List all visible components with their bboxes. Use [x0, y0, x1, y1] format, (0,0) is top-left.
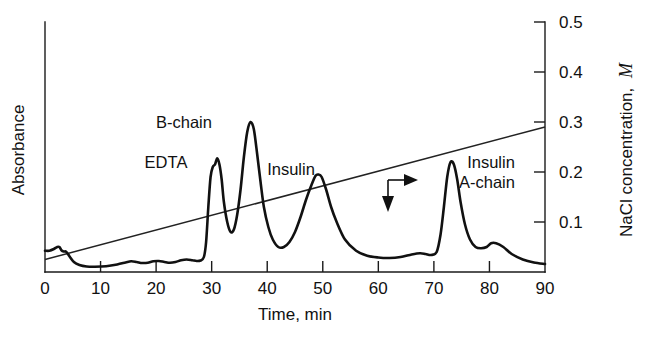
gradient-pointer-annotation — [382, 174, 418, 212]
x-tick-label: 90 — [536, 279, 555, 298]
right-axis-title-italic: M — [616, 62, 636, 79]
b-chain-label: B-chain — [156, 113, 212, 131]
x-tick-label: 50 — [313, 279, 332, 298]
x-tick-label: 0 — [40, 279, 49, 298]
x-axis-tick-labels: 0102030405060708090 — [40, 279, 554, 298]
right-axis-title-plain: NaCl concentration, — [617, 88, 636, 237]
y2-tick-label: 0.1 — [559, 213, 583, 232]
x-tick-label: 10 — [91, 279, 110, 298]
insulin-label: Insulin — [267, 160, 315, 178]
x-tick-label: 40 — [258, 279, 277, 298]
right-axis-ticks — [534, 22, 545, 222]
x-tick-label: 20 — [147, 279, 166, 298]
x-tick-label: 70 — [424, 279, 443, 298]
y2-tick-label: 0.2 — [559, 163, 583, 182]
right-axis-tick-labels: 0.10.20.30.40.5 — [559, 13, 583, 232]
peak-labels: EDTAB-chainInsulinInsulinA-chain — [145, 113, 515, 191]
x-axis-title: Time, min — [258, 305, 332, 324]
right-axis-title-group: NaCl concentration, M — [616, 62, 636, 237]
right-axis-title: NaCl concentration, M — [616, 62, 636, 237]
chromatogram-figure: 0102030405060708090 0.10.20.30.40.5 Time… — [0, 0, 653, 345]
edta-label: EDTA — [145, 153, 188, 171]
x-tick-label: 80 — [480, 279, 499, 298]
insulin-a-chain-label-line2: A-chain — [459, 173, 515, 191]
x-axis-ticks — [101, 261, 490, 272]
chart-canvas: 0102030405060708090 0.10.20.30.40.5 Time… — [0, 0, 653, 345]
down-arrow-head — [382, 196, 394, 212]
y2-tick-label: 0.5 — [559, 13, 583, 32]
insulin-a-chain-label-line1: Insulin — [467, 153, 515, 171]
right-arrow-head — [404, 174, 418, 186]
y2-tick-label: 0.3 — [559, 113, 583, 132]
x-tick-label: 30 — [202, 279, 221, 298]
y2-tick-label: 0.4 — [559, 63, 583, 82]
absorbance-trace — [45, 122, 545, 267]
x-tick-label: 60 — [369, 279, 388, 298]
y-axis-title: Absorbance — [9, 105, 28, 196]
